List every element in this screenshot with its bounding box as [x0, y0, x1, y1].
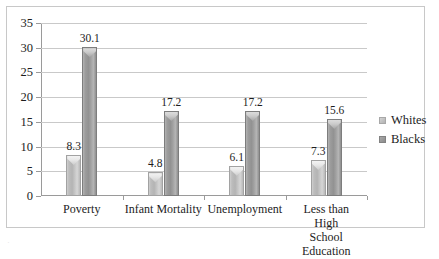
- y-axis-tick-label: 20: [21, 91, 34, 104]
- bar-blacks: [82, 47, 97, 196]
- bar-value-label: 15.6: [324, 105, 344, 117]
- y-axis-tick: [36, 196, 41, 197]
- y-axis-tick: [36, 23, 41, 24]
- bar-whites: [66, 155, 81, 196]
- bar-value-label: 30.1: [80, 33, 100, 45]
- legend-item-blacks: Blacks: [379, 130, 426, 149]
- legend-swatch-icon-blacks: [379, 136, 386, 143]
- bar-value-label: 7.3: [311, 146, 325, 158]
- y-axis-tick-label: 5: [27, 165, 33, 178]
- bar-value-label: 17.2: [243, 97, 263, 109]
- bar-blacks: [164, 111, 179, 196]
- y-axis-tick-label: 25: [21, 66, 34, 79]
- x-axis-separator-tick: [204, 196, 205, 200]
- legend-swatch-icon-whites: [379, 117, 386, 124]
- y-axis-tick: [36, 72, 41, 73]
- gridline: [41, 23, 367, 24]
- y-axis-tick: [36, 171, 41, 172]
- y-axis-tick: [36, 147, 41, 148]
- legend: Whites Blacks: [379, 111, 426, 149]
- bar-value-label: 17.2: [161, 97, 181, 109]
- y-axis-tick-label: 15: [21, 116, 34, 129]
- category-label: Unemployment: [207, 202, 282, 216]
- category-label: Less than High School Education: [302, 202, 351, 259]
- category-label: Poverty: [63, 202, 100, 216]
- bar-blacks: [327, 119, 342, 196]
- bar-whites: [148, 172, 163, 196]
- plot-area: 05101520253035 8.330.14.817.26.117.27.31…: [41, 23, 367, 196]
- legend-label-blacks: Blacks: [391, 133, 425, 146]
- x-axis-separator-tick: [123, 196, 124, 200]
- y-axis-tick: [36, 97, 41, 98]
- bar-value-label: 6.1: [230, 152, 244, 164]
- y-axis-tick: [36, 122, 41, 123]
- y-axis-tick-label: 35: [21, 17, 34, 30]
- y-axis-tick-label: 10: [21, 140, 34, 153]
- bar-value-label: 8.3: [67, 141, 81, 153]
- x-axis-separator-tick: [286, 196, 287, 200]
- bar-blacks: [245, 111, 260, 196]
- caption-clipped: .: [7, 235, 427, 243]
- bar-value-label: 4.8: [148, 158, 162, 170]
- caption-text: .: [7, 235, 427, 243]
- category-label: Infant Mortality: [125, 202, 202, 216]
- legend-item-whites: Whites: [379, 111, 426, 130]
- x-axis-separator-tick: [367, 196, 368, 200]
- bar-whites: [311, 160, 326, 196]
- y-axis-tick-label: 0: [27, 190, 33, 203]
- chart-frame: 05101520253035 8.330.14.817.26.117.27.31…: [6, 6, 425, 228]
- legend-label-whites: Whites: [391, 114, 426, 127]
- y-axis-tick-label: 30: [21, 41, 34, 54]
- y-axis-tick: [36, 48, 41, 49]
- bar-whites: [229, 166, 244, 196]
